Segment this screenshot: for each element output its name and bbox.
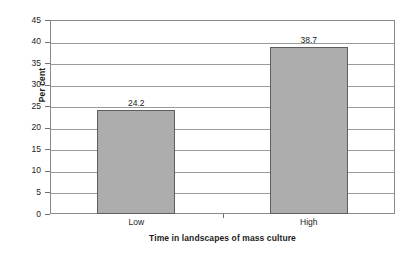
y-axis-tick-label: 30: [0, 80, 41, 89]
bar: [270, 47, 348, 214]
bar: [97, 110, 175, 214]
bar-chart: Per cent 051015202530354045 LowHigh 24.2…: [0, 0, 413, 255]
y-axis-tick: [45, 192, 50, 193]
y-axis-tick: [45, 20, 50, 21]
x-axis-title: Time in landscapes of mass culture: [50, 233, 395, 243]
y-axis-tick-label: 5: [0, 188, 41, 197]
x-axis-category-label: High: [264, 217, 354, 227]
x-axis-category-label: Low: [91, 217, 181, 227]
y-axis-tick: [45, 171, 50, 172]
bar-value-label: 24.2: [96, 98, 176, 108]
y-axis-tick-label: 25: [0, 102, 41, 111]
y-axis-tick: [45, 149, 50, 150]
y-axis-tick: [45, 63, 50, 64]
y-axis-tick-label: 35: [0, 59, 41, 68]
y-axis-tick-label: 15: [0, 145, 41, 154]
y-axis-tick: [45, 214, 50, 215]
bar-value-label: 38.7: [269, 35, 349, 45]
y-axis-tick-label: 10: [0, 166, 41, 175]
y-axis-tick-label: 20: [0, 123, 41, 132]
y-axis-tick: [45, 85, 50, 86]
x-axis-tick: [223, 214, 224, 218]
y-axis-tick-label: 45: [0, 16, 41, 25]
y-axis-tick: [45, 128, 50, 129]
y-axis-tick-label: 0: [0, 210, 41, 219]
y-axis-tick: [45, 106, 50, 107]
y-axis-tick-label: 40: [0, 37, 41, 46]
y-axis-tick: [45, 42, 50, 43]
